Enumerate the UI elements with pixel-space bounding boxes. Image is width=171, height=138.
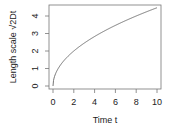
y-tick-label: 4 (30, 13, 40, 18)
plot-box (49, 5, 161, 89)
y-tick-label: 0 (30, 83, 40, 88)
y-tick-label: 3 (30, 31, 40, 36)
x-tick-label: 0 (50, 97, 55, 107)
y-tick-label: 2 (30, 48, 40, 53)
y-tick-label: 1 (30, 66, 40, 71)
data-line (53, 8, 157, 86)
x-tick-label: 8 (134, 97, 139, 107)
x-axis-label: Time t (93, 115, 118, 125)
chart: 0246810 01234 Time t Length scale √2Dt (0, 0, 171, 138)
y-axis-label: Length scale √2Dt (8, 10, 18, 83)
x-tick-label: 4 (92, 97, 97, 107)
x-tick-label: 2 (71, 97, 76, 107)
y-axis: 01234 (30, 13, 49, 88)
x-tick-label: 6 (113, 97, 118, 107)
x-axis: 0246810 (50, 89, 162, 107)
x-tick-label: 10 (152, 97, 162, 107)
